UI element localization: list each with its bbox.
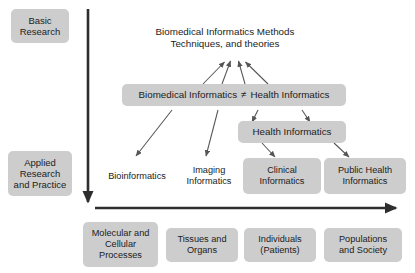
clinical-informatics-label: Clinical Informatics <box>260 165 305 187</box>
applied-research-box: Applied Research and Practice <box>8 151 72 196</box>
health-informatics-label: Health Informatics <box>251 89 330 101</box>
arrow-to-imaging-informatics <box>206 110 218 156</box>
arrow-hi-to-clinical <box>262 143 275 157</box>
biomedical-vs-health-informatics-box: Biomedical Informatics ≠ Health Informat… <box>122 84 346 106</box>
scale-box-populations: Populations and Society <box>324 228 402 262</box>
basic-research-label: Basic Research <box>20 15 61 37</box>
basic-research-box: Basic Research <box>11 9 69 43</box>
health-informatics-box-label: Health Informatics <box>253 126 332 138</box>
clinical-informatics-box: Clinical Informatics <box>243 158 321 194</box>
arrow-bmi-to-title <box>203 62 225 84</box>
applied-research-label: Applied Research and Practice <box>14 157 67 191</box>
imaging-informatics-node: Imaging Informatics <box>175 163 243 189</box>
scale-box-individuals-label: Individuals (Patients) <box>258 234 301 256</box>
not-equal-icon: ≠ <box>237 89 251 101</box>
arrow-to-bioinformatics <box>136 110 172 156</box>
title-node-label: Biomedical Informatics Methods Technique… <box>156 26 295 49</box>
bioinformatics-node: Bioinformatics <box>98 163 176 189</box>
title-node: Biomedical Informatics Methods Technique… <box>140 24 310 52</box>
public-health-informatics-label: Public Health Informatics <box>338 165 392 187</box>
biomedical-informatics-label: Biomedical Informatics <box>138 89 237 101</box>
scale-box-individuals: Individuals (Patients) <box>244 228 316 262</box>
scale-box-tissues-label: Tissues and Organs <box>177 234 226 256</box>
imaging-informatics-label: Imaging Informatics <box>187 165 232 187</box>
bioinformatics-label: Bioinformatics <box>108 171 166 182</box>
arrow-mid2-to-title <box>239 61 246 84</box>
biomedical-informatics-diagram: Basic Research Applied Research and Prac… <box>0 0 415 273</box>
arrow-mid1-to-title <box>222 61 231 84</box>
public-health-informatics-box: Public Health Informatics <box>324 158 406 194</box>
scale-box-molecular: Molecular and Cellular Processes <box>83 222 158 267</box>
scale-box-populations-label: Populations and Society <box>339 234 387 256</box>
arrow-hi-to-public-health <box>334 143 349 157</box>
health-informatics-box: Health Informatics <box>238 121 346 143</box>
arrow-hi-to-title <box>246 62 269 84</box>
scale-box-molecular-label: Molecular and Cellular Processes <box>92 228 150 261</box>
scale-box-tissues: Tissues and Organs <box>166 228 238 262</box>
